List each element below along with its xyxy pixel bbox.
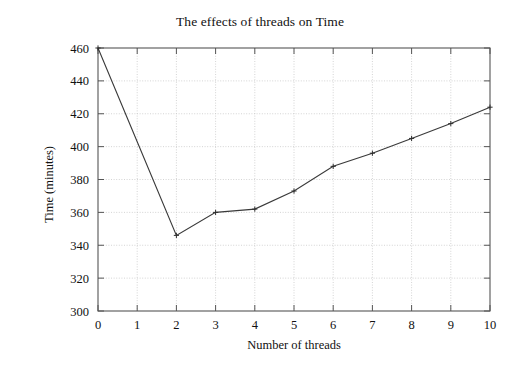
y-tick-label: 340: [70, 239, 89, 253]
x-tick-label: 7: [369, 318, 375, 332]
y-tick-label: 440: [70, 74, 89, 88]
data-point-marker: [174, 233, 179, 238]
data-point-marker: [252, 206, 257, 211]
x-tick-label: 0: [95, 318, 101, 332]
x-tick-label: 1: [134, 318, 140, 332]
x-tick-labels: 012345678910: [95, 318, 496, 332]
y-tick-label: 320: [70, 272, 89, 286]
x-tick-label: 4: [252, 318, 259, 332]
data-point-marker: [213, 210, 218, 215]
data-point-marker: [370, 151, 375, 156]
data-point-marker: [409, 136, 414, 141]
y-tick-label: 400: [70, 140, 89, 154]
plot-area: 300320340360380400420440460 012345678910: [0, 0, 520, 370]
x-tick-label: 10: [484, 318, 497, 332]
data-point-marker: [331, 164, 336, 169]
y-tick-label: 360: [70, 206, 89, 220]
y-tick-label: 300: [70, 305, 89, 319]
x-tick-label: 9: [448, 318, 454, 332]
y-tick-labels: 300320340360380400420440460: [70, 42, 89, 319]
data-point-marker: [487, 105, 492, 110]
data-point-marker: [291, 188, 296, 193]
y-tick-label: 420: [70, 107, 89, 121]
data-point-marker: [448, 121, 453, 126]
x-tick-label: 5: [291, 318, 297, 332]
y-tick-label: 380: [70, 173, 89, 187]
x-tick-label: 2: [173, 318, 179, 332]
chart-figure: The effects of threads on Time Time (min…: [0, 0, 520, 370]
y-tick-label: 460: [70, 42, 89, 56]
x-tick-label: 6: [330, 318, 336, 332]
x-tick-label: 8: [408, 318, 414, 332]
x-tick-label: 3: [212, 318, 218, 332]
data-point-marker: [95, 45, 100, 50]
grid-layer: [98, 48, 490, 311]
